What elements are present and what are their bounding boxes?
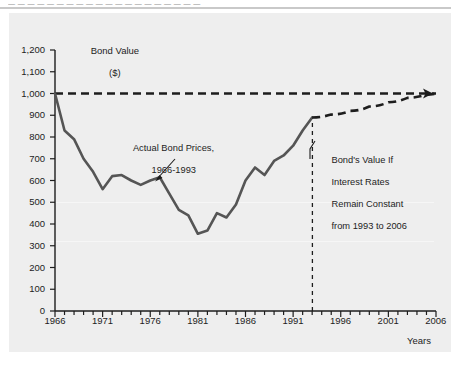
y-tick-label: 1,200: [9, 45, 45, 55]
y-tick-label: 600: [9, 176, 45, 186]
y-tick-label: 800: [9, 132, 45, 142]
annotation-projection-line1: Bond's Value If: [332, 155, 394, 165]
y-axis-title-line2: ($): [109, 67, 121, 78]
x-tick-label: 1976: [128, 316, 172, 326]
y-tick-label: 100: [9, 284, 45, 294]
page-header-text: — — — — — — — — — — — — — — — — — — — —: [8, 0, 451, 7]
annotation-actual-bond-prices: Actual Bond Prices, 1966-1993: [113, 132, 219, 187]
bond-value-chart: Bond Value ($) Years 1,200 1,100 1,000 9…: [9, 13, 451, 352]
figure-panel: — — — — — — — — — — — — — — — — — — — —: [0, 0, 451, 366]
annotation-projected-value: Bond's Value If Interest Rates Remain Co…: [316, 144, 407, 243]
y-tick-label: 0: [9, 306, 45, 316]
y-axis-title-line1: Bond Value: [91, 45, 139, 56]
x-axis-title: Years: [407, 335, 431, 346]
x-tick-label: 1991: [271, 316, 315, 326]
annotation-actual-line1: Actual Bond Prices,: [133, 143, 214, 153]
annotation-actual-line2: 1966-1993: [152, 165, 196, 175]
x-tick-label: 1966: [33, 316, 77, 326]
y-tick-label: 1,100: [9, 67, 45, 77]
x-tick-label: 1971: [81, 316, 125, 326]
y-tick-label: 700: [9, 154, 45, 164]
annotation-projection-line2: Interest Rates: [332, 177, 390, 187]
x-tick-label: 2001: [366, 316, 410, 326]
x-tick-label: 1996: [319, 316, 363, 326]
annotation-projection-line4: from 1993 to 2006: [332, 221, 407, 231]
y-tick-label: 900: [9, 110, 45, 120]
y-tick-label: 500: [9, 197, 45, 207]
y-tick-label: 300: [9, 241, 45, 251]
x-tick-label: 2006: [414, 316, 451, 326]
y-tick-label: 1,000: [9, 89, 45, 99]
header-divider: [0, 7, 451, 9]
x-tick-label: 1986: [223, 316, 267, 326]
x-tick-label: 1981: [176, 316, 220, 326]
y-axis-title: Bond Value ($): [70, 34, 144, 89]
annotation-projection-line3: Remain Constant: [332, 199, 404, 209]
y-tick-label: 200: [9, 263, 45, 273]
y-tick-label: 400: [9, 219, 45, 229]
